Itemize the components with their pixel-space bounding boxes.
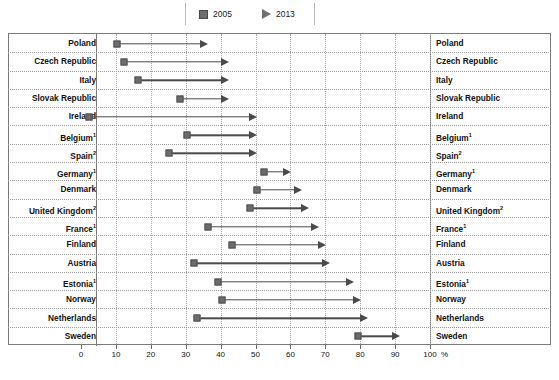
row-label-left: Netherlands (48, 309, 96, 328)
axis-tick-label-20: 20 (146, 350, 155, 359)
row-markers (97, 327, 551, 346)
marker-2013 (221, 58, 229, 66)
chart-row: IrelandIreland (8, 107, 551, 126)
axis-tick-40 (221, 345, 222, 349)
marker-2013 (360, 314, 368, 322)
change-connector-line (358, 336, 394, 337)
axis-tick-60 (290, 345, 291, 349)
axis-tick-label-40: 40 (216, 350, 225, 359)
axis-tick-label-80: 80 (356, 350, 365, 359)
change-connector-line (250, 208, 303, 209)
marker-2013 (353, 296, 361, 304)
axis-tick-label-0: 0 (79, 350, 83, 359)
marker-2013 (249, 131, 257, 139)
marker-2005 (86, 113, 93, 120)
marker-2013 (318, 241, 326, 249)
row-label-left: Italy (79, 71, 96, 90)
row-markers (97, 235, 551, 254)
row-markers (97, 290, 551, 309)
axis-tick-50 (256, 345, 257, 349)
chart-row: PolandPoland (8, 34, 551, 53)
row-markers (97, 309, 551, 328)
chart-row: NorwayNorway (8, 290, 551, 309)
row-markers (97, 89, 551, 108)
axis-tick-label-10: 10 (111, 350, 120, 359)
change-connector-line (232, 244, 320, 245)
chart-page: 2005 2013 PolandPolandCzech RepublicCzec… (0, 0, 559, 380)
marker-2005 (229, 241, 236, 248)
marker-2013 (311, 223, 319, 231)
change-connector-line (138, 80, 223, 81)
change-connector-line (197, 317, 362, 318)
axis-tick-label-100: 100 (423, 350, 436, 359)
marker-2005 (218, 296, 225, 303)
square-marker-icon (199, 10, 208, 19)
row-markers (97, 272, 551, 291)
marker-2013 (294, 186, 302, 194)
change-connector-line (117, 43, 202, 44)
row-markers (97, 162, 551, 181)
axis-tick-20 (151, 345, 152, 349)
axis-tick-10 (116, 345, 117, 349)
axis-tick-80 (360, 345, 361, 349)
marker-2013 (301, 204, 309, 212)
marker-2005 (190, 260, 197, 267)
axis-tick-0 (81, 345, 82, 349)
row-markers (97, 199, 551, 218)
row-markers (97, 71, 551, 90)
axis-tick-100 (430, 345, 431, 349)
marker-2005 (120, 58, 127, 65)
row-label-left: Finland (67, 235, 97, 254)
chart-legend: 2005 2013 (185, 3, 315, 25)
chart-row: FinlandFinland (8, 235, 551, 254)
axis-tick-label-30: 30 (181, 350, 190, 359)
marker-2013 (346, 278, 354, 286)
row-label-left: Slovak Republic (32, 89, 96, 108)
change-connector-line (194, 263, 324, 264)
marker-2013 (221, 95, 229, 103)
change-connector-line (208, 226, 314, 227)
row-markers (97, 254, 551, 273)
chart-row: NetherlandsNetherlands (8, 309, 551, 328)
marker-2013 (249, 113, 257, 121)
change-connector-line (187, 134, 251, 135)
marker-2013 (249, 149, 257, 157)
chart-row: Slovak RepublicSlovak Republic (8, 89, 551, 108)
axis-tick-70 (325, 345, 326, 349)
marker-2013 (283, 168, 291, 176)
marker-2005 (176, 95, 183, 102)
axis-tick-label-90: 90 (391, 350, 400, 359)
marker-2005 (183, 132, 190, 139)
change-connector-line (89, 116, 251, 117)
chart-row: France1France1 (8, 217, 551, 236)
row-label-left: Denmark (60, 180, 96, 199)
marker-2005 (253, 187, 260, 194)
change-connector-line (222, 299, 356, 300)
change-connector-line (218, 281, 348, 282)
legend-label-2013: 2013 (276, 9, 295, 19)
chart-row: DenmarkDenmark (8, 180, 551, 199)
marker-2005 (215, 278, 222, 285)
row-label-left: Poland (68, 34, 96, 53)
marker-2005 (194, 315, 201, 322)
axis-unit-label: % (441, 350, 448, 359)
axis-tick-30 (186, 345, 187, 349)
marker-2013 (200, 40, 208, 48)
row-markers (97, 217, 551, 236)
chart-row: ItalyItaly (8, 71, 551, 90)
chart-row: Czech RepublicCzech Republic (8, 52, 551, 71)
axis-tick-label-70: 70 (321, 350, 330, 359)
marker-2013 (221, 76, 229, 84)
axis-tick-90 (395, 345, 396, 349)
row-markers (97, 52, 551, 71)
row-label-left: Norway (66, 290, 96, 309)
x-axis: 0102030405060708090100% (8, 345, 551, 346)
marker-2005 (166, 150, 173, 157)
marker-2005 (246, 205, 253, 212)
row-markers (97, 107, 551, 126)
row-markers (97, 34, 551, 53)
chart-row: Estonia1Estonia1 (8, 272, 551, 291)
row-label-left: Sweden (65, 327, 96, 346)
axis-tick-label-50: 50 (251, 350, 260, 359)
marker-2005 (134, 77, 141, 84)
